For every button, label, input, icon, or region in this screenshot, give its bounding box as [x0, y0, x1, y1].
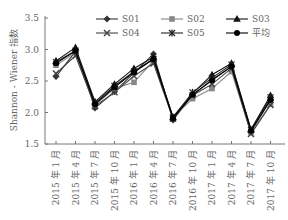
x-tick-label: 2015 年 10 月 [109, 150, 120, 211]
y-tick-label: 2.5 [25, 76, 40, 86]
data-point [151, 56, 157, 62]
x-tick-label: 2017 年 7 月 [245, 150, 256, 205]
x-tick-label: 2015 年 1 月 [50, 150, 61, 205]
legend-label: S04 [122, 28, 140, 38]
legend-item: S05 [161, 28, 205, 38]
data-point [131, 69, 137, 75]
legend-label: 平均 [252, 27, 270, 38]
x-tick-label: 2016 年 10 月 [187, 150, 198, 211]
data-point [170, 115, 176, 121]
x-tick-label: 2015 年 4 月 [70, 150, 81, 205]
legend: S01S02S03S04S05平均 [96, 14, 270, 38]
data-point [248, 128, 254, 134]
x-tick-label: 2015 年 7 月 [89, 150, 100, 205]
legend-label: S02 [187, 14, 205, 24]
legend-marker-icon [233, 15, 241, 22]
y-axis-title: Shannon - Wiener 指数 [8, 29, 19, 131]
y-tick-label: 3.5 [25, 13, 40, 23]
legend-label: S01 [122, 14, 140, 24]
legend-item: S02 [161, 14, 205, 24]
legend-item: 平均 [226, 27, 270, 38]
data-point [53, 60, 59, 66]
line-chart: 1.52.02.53.03.52015 年 1 月2015 年 4 月2015 … [0, 0, 288, 220]
legend-item: S01 [96, 14, 140, 24]
data-point [112, 84, 118, 90]
legend-marker-icon [104, 16, 111, 23]
legend-item: S04 [96, 28, 140, 38]
x-tick-label: 2017 年 1 月 [206, 150, 217, 205]
x-tick-label: 2017 年 10 月 [265, 150, 276, 211]
legend-marker-icon [234, 30, 240, 36]
data-point [92, 101, 98, 107]
data-point [131, 79, 137, 85]
data-point [209, 77, 215, 83]
legend-marker-icon [169, 16, 175, 22]
y-tick-label: 1.5 [25, 139, 40, 149]
data-point [73, 48, 79, 54]
series-group [52, 44, 274, 137]
x-tick-label: 2016 年 4 月 [148, 150, 159, 205]
y-tick-label: 3.0 [25, 45, 40, 55]
legend-label: S05 [187, 28, 205, 38]
data-point [268, 97, 274, 103]
data-point [229, 64, 235, 70]
data-point [190, 92, 196, 98]
y-tick-label: 2.0 [25, 108, 40, 118]
x-tick-label: 2016 年 7 月 [167, 150, 178, 205]
axes: 1.52.02.53.03.52015 年 1 月2015 年 4 月2015 … [8, 13, 285, 211]
x-tick-label: 2016 年 1 月 [128, 150, 139, 205]
legend-label: S03 [252, 14, 270, 24]
series-line [56, 56, 271, 134]
legend-item: S03 [226, 14, 270, 24]
x-tick-label: 2017 年 4 月 [226, 150, 237, 205]
